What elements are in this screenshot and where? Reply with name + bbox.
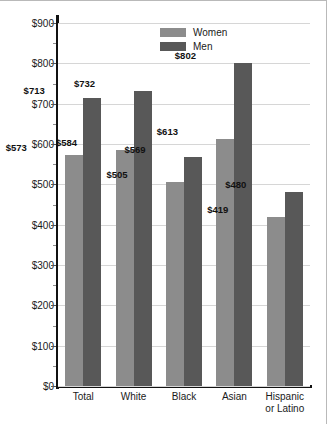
bar-value-label: $613	[144, 126, 190, 137]
bar-group	[267, 23, 303, 386]
bar-value-label: $732	[62, 78, 108, 89]
x-axis-category-line: Hispanic	[247, 391, 323, 403]
y-axis-tick-label: $400	[2, 219, 54, 230]
gridline	[58, 386, 310, 387]
bar-men-asian[interactable]	[234, 63, 252, 386]
y-axis-tick-label: $700	[2, 98, 54, 109]
legend-item-women[interactable]: Women	[160, 27, 227, 38]
y-axis-tick-label: $900	[2, 18, 54, 29]
bar-men-black[interactable]	[184, 157, 202, 386]
bar-value-label: $505	[94, 169, 140, 180]
bar-chart-figure: Earnings $900$800$700$600$500$400$300$20…	[0, 0, 327, 424]
bar-women-white[interactable]	[116, 150, 134, 386]
y-axis-tick-label: $800	[2, 58, 54, 69]
bar-women-asian[interactable]	[216, 139, 234, 386]
bar-value-label: $713	[11, 85, 57, 96]
bar-value-label: $802	[162, 50, 208, 61]
bar-value-label: $584	[44, 137, 90, 148]
x-axis-category-line: or Latino	[247, 403, 323, 415]
legend-swatch-women	[160, 28, 186, 37]
y-axis-tick-label: $0	[2, 381, 54, 392]
bar-group	[116, 23, 152, 386]
y-axis-tick-labels: $900$800$700$600$500$400$300$200$100$0	[0, 1, 54, 424]
bar-value-label: $480	[213, 179, 259, 190]
y-axis-tick-label: $300	[2, 260, 54, 271]
bar-men-hispanic-or-latino[interactable]	[285, 192, 303, 386]
bar-value-label: $569	[112, 144, 158, 155]
y-axis-tick-label: $100	[2, 340, 54, 351]
bar-women-black[interactable]	[166, 182, 184, 386]
bar-value-label: $573	[0, 142, 39, 153]
legend-label: Women	[193, 27, 227, 38]
y-axis-tick-label: $500	[2, 179, 54, 190]
y-axis-tick-label: $200	[2, 300, 54, 311]
bar-women-total[interactable]	[65, 155, 83, 386]
bar-value-label: $419	[195, 204, 241, 215]
x-axis-category-label: Hispanicor Latino	[247, 391, 323, 415]
bar-women-hispanic-or-latino[interactable]	[267, 217, 285, 386]
